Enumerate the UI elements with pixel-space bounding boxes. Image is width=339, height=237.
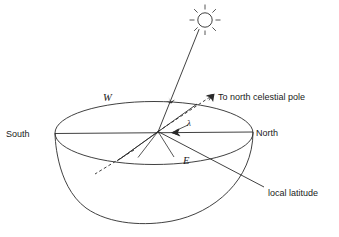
astronomy-diagram: South North W E To north celestial pole … — [0, 0, 339, 237]
arrow-head-icon — [206, 94, 215, 102]
hemisphere-bowl — [55, 132, 253, 224]
south-north-axis — [55, 132, 253, 134]
latitude-angle-arrow — [171, 125, 188, 136]
local-latitude-line — [158, 132, 264, 188]
label-local-latitude: local latitude — [268, 188, 318, 198]
sun-icon — [190, 5, 221, 36]
label-north: North — [256, 128, 278, 138]
label-north-celestial-pole: To north celestial pole — [218, 92, 305, 102]
diagram-canvas: South North W E To north celestial pole … — [0, 0, 339, 237]
label-south: South — [6, 129, 30, 139]
label-lambda: λ — [186, 118, 191, 128]
label-east: E — [182, 155, 190, 166]
sun-ray-line — [158, 30, 199, 133]
label-west: W — [103, 92, 113, 103]
south-celestial-pole-ray — [95, 150, 134, 174]
